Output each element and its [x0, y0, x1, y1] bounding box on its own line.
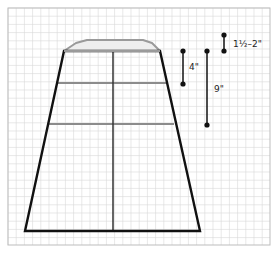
measurement-first-band: 4" — [180, 48, 198, 86]
measurement-top-height: 1½–2" — [221, 32, 261, 53]
endpoint-dot — [180, 81, 185, 86]
measurement-label-4in: 4" — [189, 62, 199, 72]
measurement-label-9in: 9" — [214, 84, 224, 94]
lampshade-diagram: 1½–2" 4" 9" — [0, 0, 280, 264]
endpoint-dot — [204, 48, 209, 53]
lampshade-top-cap — [64, 40, 160, 51]
horizontal-guide-lines — [48, 83, 174, 124]
endpoint-dot — [221, 32, 226, 37]
endpoint-dot — [204, 122, 209, 127]
measurement-label-top: 1½–2" — [233, 39, 262, 49]
endpoint-dot — [221, 48, 226, 53]
endpoint-dot — [180, 48, 185, 53]
